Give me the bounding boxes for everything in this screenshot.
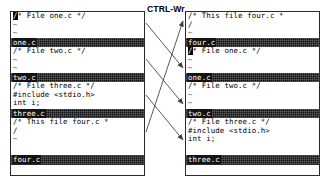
window-text-one-before: /* File one.c */ ~ ~ <box>11 12 144 38</box>
code-line: int i; <box>188 135 318 144</box>
vim-window-two-before[interactable]: /* File two.c */ ~ ~ two.c <box>11 47 144 82</box>
window-text-two-before: /* File two.c */ ~ ~ <box>11 47 144 73</box>
arrow-three-c <box>146 95 183 140</box>
code-line: /* File two.c */ <box>188 82 318 91</box>
window-text-one-after: /* File one.c */ ~ ~ <box>186 47 319 73</box>
vim-window-four-before[interactable]: /* This file four.c * / ~ four.c <box>11 118 144 164</box>
code-line: int i; <box>13 99 143 108</box>
status-bar-three-before[interactable]: three.c <box>11 109 144 118</box>
arrow-one-c <box>146 23 183 68</box>
status-filename: three.c <box>13 109 46 118</box>
status-filename: two.c <box>13 73 37 82</box>
code-line: ~ <box>188 99 318 108</box>
window-text-three-after: /* File three.c */ #include <stdio.h> in… <box>186 118 319 155</box>
window-text-four-before: /* This file four.c * / ~ <box>11 118 144 155</box>
vim-window-one-before[interactable]: /* File one.c */ ~ ~ one.c <box>11 12 144 47</box>
vim-window-rotation-diagram: /* File one.c */ ~ ~ one.c /* File two.c… <box>0 0 323 184</box>
vim-window-two-after[interactable]: /* File two.c */ ~ ~ two.c <box>186 82 319 118</box>
window-text-two-after: /* File two.c */ ~ ~ <box>186 82 319 109</box>
status-filename: two.c <box>188 109 212 118</box>
window-text-three-before: /* File three.c */ #include <stdio.h> in… <box>11 82 144 109</box>
code-line: ~ <box>13 135 143 144</box>
code-line: /* This file four.c * <box>188 12 318 21</box>
ctrl-w-r-label: CTRL-Wr <box>147 4 185 14</box>
status-filename: four.c <box>13 155 41 164</box>
status-bar-one-after[interactable]: one.c <box>186 73 319 82</box>
code-line: ~ <box>13 64 143 73</box>
arrow-two-c <box>146 59 183 104</box>
status-filename: one.c <box>13 38 37 47</box>
code-line: ~ <box>13 56 143 65</box>
status-filename: one.c <box>188 73 212 82</box>
code-line: ~ <box>13 29 143 38</box>
code-line-rest: * File one.c */ <box>193 47 261 55</box>
vim-frame-before: /* File one.c */ ~ ~ one.c /* File two.c… <box>10 11 145 176</box>
status-bar-three-after[interactable]: three.c <box>186 155 319 164</box>
status-bar-one-before[interactable]: one.c <box>11 38 144 47</box>
code-line-rest: * File one.c */ <box>18 12 86 20</box>
code-line: ~ <box>188 29 318 38</box>
code-line: /* This file four.c * <box>13 118 143 127</box>
vim-window-one-after[interactable]: /* File one.c */ ~ ~ one.c <box>186 47 319 82</box>
code-line: ~ <box>188 56 318 65</box>
code-line: /* File two.c */ <box>13 47 143 56</box>
status-filename: three.c <box>188 155 221 164</box>
command-line-before[interactable] <box>11 164 144 175</box>
vim-frame-after: /* This file four.c * / ~ four.c /* File… <box>185 11 320 176</box>
command-line-after[interactable] <box>186 164 319 175</box>
status-bar-two-before[interactable]: two.c <box>11 73 144 82</box>
code-line: /* File one.c */ <box>188 47 318 56</box>
code-line: ~ <box>188 91 318 100</box>
status-bar-two-after[interactable]: two.c <box>186 109 319 118</box>
code-line: /* File one.c */ <box>13 12 143 21</box>
status-bar-four-after[interactable]: four.c <box>186 38 319 47</box>
status-filename: four.c <box>188 38 216 47</box>
arrow-four-c <box>146 21 183 132</box>
window-text-four-after: /* This file four.c * / ~ <box>186 12 319 38</box>
vim-window-four-after[interactable]: /* This file four.c * / ~ four.c <box>186 12 319 47</box>
code-line: / <box>188 21 318 30</box>
status-bar-four-before[interactable]: four.c <box>11 155 144 164</box>
code-line: ~ <box>13 21 143 30</box>
code-line: / <box>13 127 143 136</box>
code-line: ~ <box>188 64 318 73</box>
vim-window-three-before[interactable]: /* File three.c */ #include <stdio.h> in… <box>11 82 144 118</box>
vim-window-three-after[interactable]: /* File three.c */ #include <stdio.h> in… <box>186 118 319 164</box>
